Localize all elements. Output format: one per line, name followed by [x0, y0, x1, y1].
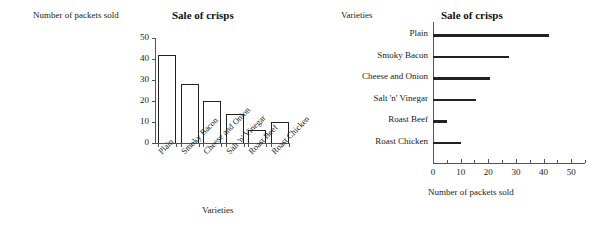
left-chart-y-tick-label: 10 — [133, 116, 149, 126]
right-chart-category-label: Roast Beef — [305, 114, 428, 124]
left-chart-y-tick-mark — [152, 143, 155, 144]
left-chart-y-tick-label: 40 — [133, 53, 149, 63]
right-chart-x-tick-label: 40 — [534, 167, 554, 177]
right-chart-category-label: Roast Chicken — [305, 136, 428, 146]
left-chart-x-tick-mark — [289, 144, 290, 147]
right-chart-x-axis-title: Number of packets sold — [428, 187, 514, 197]
right-chart-x-major-tick — [544, 159, 545, 163]
left-chart-title: Sale of crisps — [172, 9, 234, 21]
horizontal-bar — [433, 34, 549, 37]
left-chart-y-tick-mark — [152, 38, 155, 39]
right-chart-x-major-tick — [488, 159, 489, 163]
left-chart-y-tick-label: 0 — [133, 137, 149, 147]
right-chart-x-tick-label: 30 — [506, 167, 526, 177]
right-chart-category-label: Salt 'n' Vinegar — [305, 93, 428, 103]
vertical-bar-chart: Number of packets sold Sale of crisps 50… — [0, 0, 304, 234]
right-chart-title: Sale of crisps — [441, 9, 503, 21]
right-chart-x-major-tick — [516, 159, 517, 163]
right-chart-category-label: Smoky Bacon — [305, 50, 428, 60]
right-chart-x-tick-label: 20 — [478, 167, 498, 177]
left-chart-y-tick-mark — [152, 101, 155, 102]
right-chart-x-major-tick — [571, 159, 572, 163]
right-chart-x-major-tick — [433, 159, 434, 163]
horizontal-bar-chart: Varieties Sale of crisps 01020304050 Pla… — [304, 0, 608, 234]
left-chart-y-tick-label: 30 — [133, 74, 149, 84]
crisps-sales-figure: Number of packets sold Sale of crisps 50… — [0, 0, 608, 234]
left-chart-x-tick-mark — [176, 144, 177, 147]
right-chart-y-axis-title: Varieties — [341, 10, 373, 20]
right-chart-x-minor-tick — [474, 160, 475, 163]
left-chart-x-tick-mark — [266, 144, 267, 147]
right-chart-x-minor-tick — [557, 160, 558, 163]
right-chart-x-tick-label: 10 — [451, 167, 471, 177]
left-chart-y-tick-mark — [152, 80, 155, 81]
left-chart-y-axis — [155, 38, 156, 144]
right-chart-x-axis — [433, 163, 585, 164]
right-chart-category-label: Cheese and Onion — [305, 71, 428, 81]
horizontal-bar — [433, 56, 509, 59]
horizontal-bar — [433, 77, 490, 80]
right-chart-x-minor-tick — [447, 160, 448, 163]
right-chart-category-label: Plain — [305, 28, 428, 38]
left-chart-x-tick-mark — [244, 144, 245, 147]
left-chart-y-tick-mark — [152, 59, 155, 60]
right-chart-x-minor-tick — [530, 160, 531, 163]
horizontal-bar — [433, 120, 447, 123]
left-chart-x-tick-mark — [199, 144, 200, 147]
right-chart-x-minor-tick — [502, 160, 503, 163]
left-chart-y-tick-mark — [152, 122, 155, 123]
horizontal-bar — [433, 142, 461, 145]
right-chart-x-major-tick — [461, 159, 462, 163]
horizontal-bar — [433, 99, 476, 102]
right-chart-x-minor-tick — [585, 160, 586, 163]
left-chart-x-axis-title: Varieties — [202, 205, 234, 215]
left-chart-y-axis-title: Number of packets sold — [33, 10, 119, 20]
left-chart-x-tick-mark — [221, 144, 222, 147]
left-chart-y-tick-label: 50 — [133, 32, 149, 42]
right-chart-x-tick-label: 0 — [423, 167, 443, 177]
left-chart-y-tick-label: 20 — [133, 95, 149, 105]
vertical-bar — [158, 55, 176, 143]
right-chart-x-tick-label: 50 — [561, 167, 581, 177]
